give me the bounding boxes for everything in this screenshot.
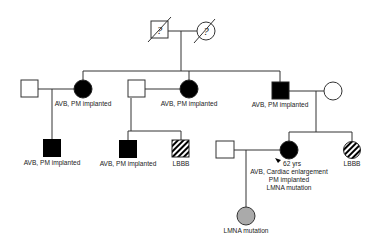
III-5-label: LBBB: [344, 160, 361, 168]
III-4-proband-female: [280, 141, 298, 159]
III-5-lbbb-female: [344, 142, 361, 159]
IV-1-label: LMNA mutation: [223, 227, 268, 235]
gen1-mother: ?: [194, 19, 215, 43]
proband-line1: AVB, Cardiac enlargement: [250, 168, 328, 176]
proband-line3: LMNA mutation: [266, 184, 311, 192]
III-3-lbbb-male: [172, 140, 189, 157]
pedigree-chart: ? ?: [0, 0, 379, 251]
proband-arrow-icon: [275, 158, 281, 163]
II-spouse-3: [324, 82, 342, 100]
II-spouse-1: [21, 80, 38, 97]
IV-1-carrier-female: [237, 207, 255, 225]
II-3-affected-male: [272, 82, 289, 99]
proband-line2: PM implanted: [269, 176, 309, 184]
II-spouse-2: [128, 80, 145, 97]
III-1-affected-male: [43, 139, 61, 157]
II-2-affected-female: [180, 80, 198, 98]
II-2-label: AVB, PM implanted: [161, 100, 218, 108]
III-3-label: LBBB: [173, 160, 190, 168]
II-3-label: AVB, PM implanted: [252, 101, 309, 109]
III-2-affected-male: [119, 140, 137, 158]
III-spouse: [216, 141, 234, 158]
III-2-label: AVB, PM implanted: [100, 160, 157, 168]
svg-text:?: ?: [157, 24, 163, 36]
II-1-label: AVB, PM implanted: [55, 100, 112, 108]
proband-age: 62 yrs: [283, 160, 301, 168]
II-1-affected-female: [74, 80, 92, 98]
III-1-label: AVB, PM implanted: [24, 159, 81, 167]
gen1-father: ?: [148, 17, 171, 42]
